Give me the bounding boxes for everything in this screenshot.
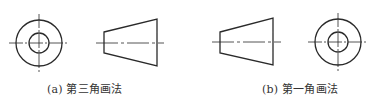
panel-a-trapezoid-view	[96, 19, 164, 66]
panel-a-third-angle	[9, 14, 164, 73]
caption-third-angle: (a) 第三角画法	[47, 80, 122, 96]
panel-a-circle-view	[9, 14, 69, 73]
caption-first-angle: (b) 第一角画法	[262, 80, 338, 96]
frustum-outline	[220, 18, 273, 65]
panel-b-first-angle	[212, 13, 368, 72]
frustum-outline	[104, 19, 157, 66]
panel-b-circle-view	[308, 13, 368, 72]
panel-b-trapezoid-view	[212, 18, 281, 65]
